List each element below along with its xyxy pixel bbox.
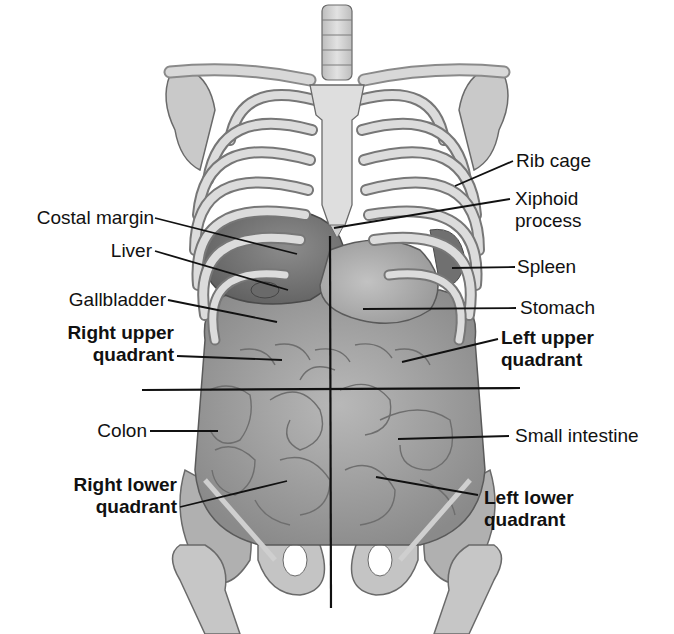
label-right-upper-quadrant-line1: Right upper	[24, 322, 174, 344]
label-costal-margin: Costal margin	[24, 207, 154, 229]
label-xiphoid-process-line1: Xiphoid	[515, 188, 582, 210]
abdominal-organs	[195, 209, 485, 560]
label-right-upper-quadrant-line2: quadrant	[24, 344, 174, 366]
label-stomach: Stomach	[520, 297, 595, 319]
label-xiphoid-process-line2: process	[515, 210, 582, 232]
label-gallbladder: Gallbladder	[24, 289, 166, 311]
label-small-intestine: Small intestine	[515, 425, 639, 447]
label-right-lower-quadrant-line1: Right lower	[24, 474, 177, 496]
label-liver: Liver	[24, 240, 152, 262]
label-right-upper-quadrant: Right upper quadrant	[24, 322, 174, 366]
label-right-lower-quadrant-line2: quadrant	[24, 496, 177, 518]
label-rib-cage: Rib cage	[516, 150, 591, 172]
label-left-lower-quadrant-line1: Left lower	[484, 487, 574, 509]
label-spleen: Spleen	[517, 256, 576, 278]
label-left-upper-quadrant: Left upper quadrant	[501, 327, 594, 371]
label-left-lower-quadrant-line2: quadrant	[484, 509, 574, 531]
label-left-upper-quadrant-line1: Left upper	[501, 327, 594, 349]
label-left-upper-quadrant-line2: quadrant	[501, 349, 594, 371]
label-colon: Colon	[24, 420, 147, 442]
label-xiphoid-process: Xiphoid process	[515, 188, 582, 232]
label-left-lower-quadrant: Left lower quadrant	[484, 487, 574, 531]
label-right-lower-quadrant: Right lower quadrant	[24, 474, 177, 518]
